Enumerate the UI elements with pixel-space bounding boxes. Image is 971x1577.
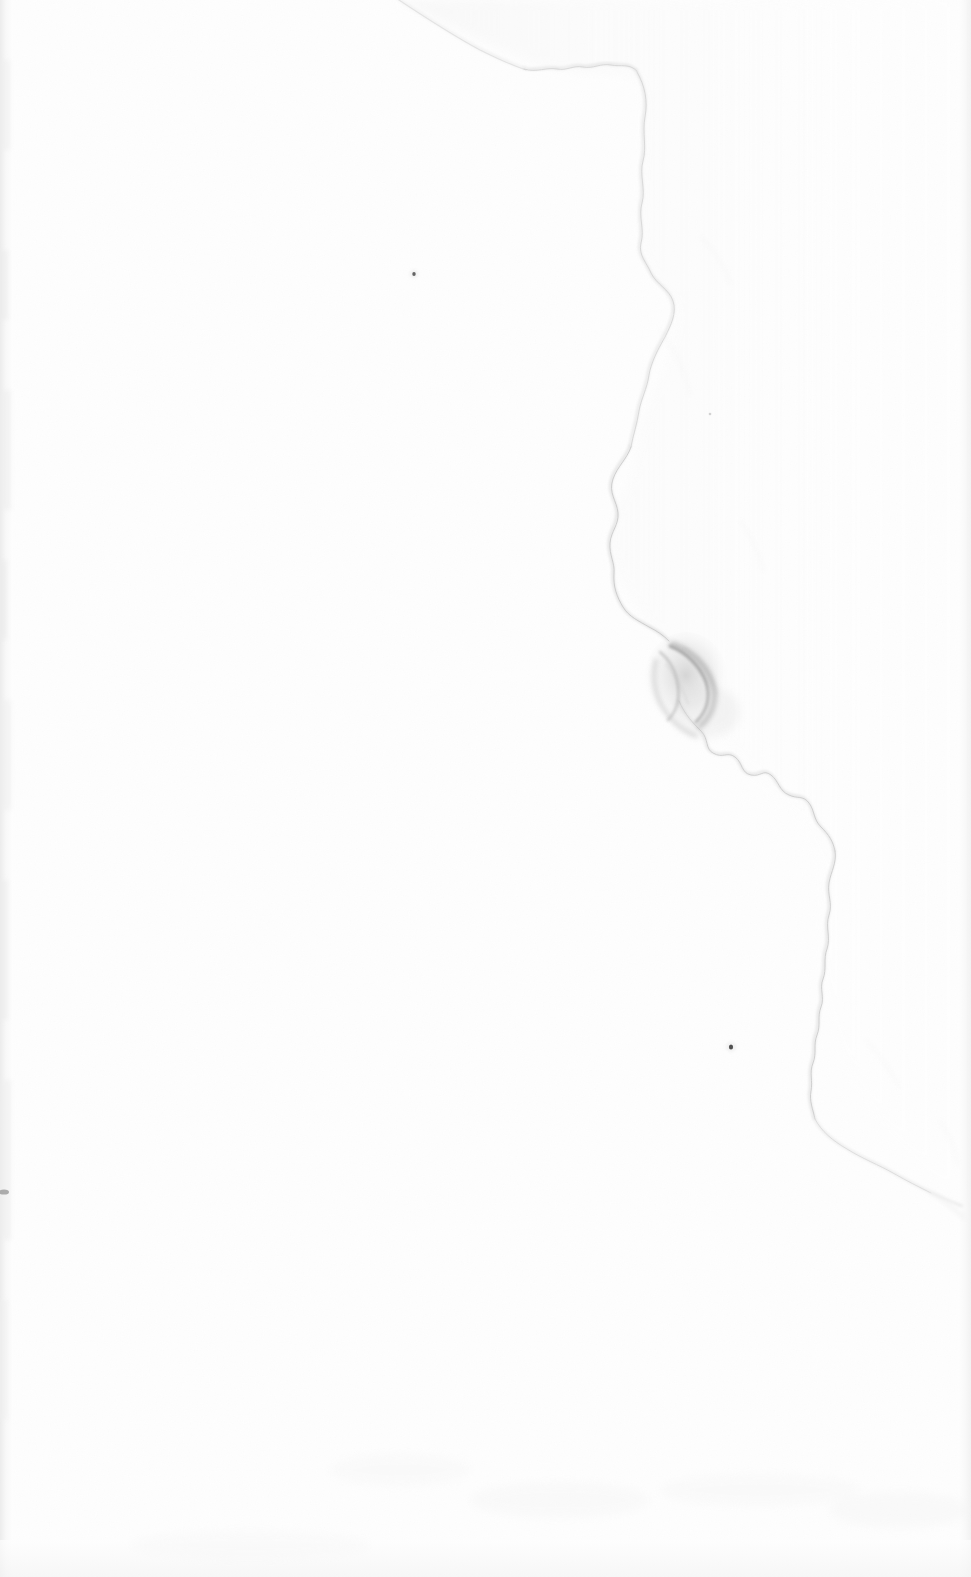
scanned-page: A scanned blank sheet of paper: almost e… [0, 0, 971, 1577]
dust-speck-middle [709, 413, 712, 416]
scan-canvas [0, 0, 971, 1577]
dust-speck-upper-halo [410, 270, 418, 278]
dust-speck-lower-halo [726, 1042, 736, 1052]
